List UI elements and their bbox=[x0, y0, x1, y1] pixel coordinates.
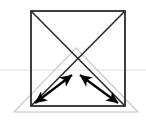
geometry-diagram bbox=[0, 0, 146, 129]
figure-canvas bbox=[0, 0, 146, 129]
